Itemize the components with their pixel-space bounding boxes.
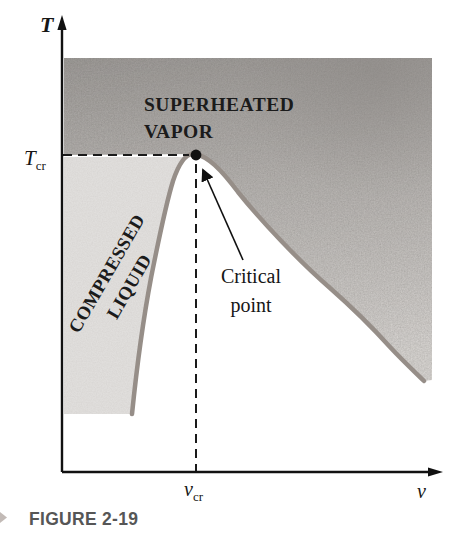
tcr-tick-label: Tcr	[24, 146, 46, 174]
y-axis-arrowhead	[57, 15, 66, 30]
figure-caption: FIGURE 2-19	[29, 509, 138, 530]
x-axis-arrowhead	[428, 467, 443, 476]
critical-point-label: Critical point	[203, 262, 299, 320]
critical-point-dot	[191, 150, 202, 161]
superheated-vapor-label: SUPERHEATED VAPOR	[144, 91, 294, 145]
vcr-tick-base: v	[184, 478, 193, 500]
figure-2-19: T Tcr SUPERHEATED VAPOR COMPRESSED LIQUI…	[0, 0, 450, 535]
vcr-tick-subscript: cr	[193, 489, 203, 504]
tcr-tick-subscript: cr	[36, 158, 46, 173]
superheated-vapor-label-line1: SUPERHEATED	[144, 91, 294, 118]
caption-edge-mark	[0, 512, 7, 523]
critical-point-label-line2: point	[203, 291, 299, 320]
x-axis-label: v	[417, 480, 426, 503]
tcr-tick-base: T	[24, 146, 36, 170]
critical-point-label-line1: Critical	[203, 262, 299, 291]
vcr-tick-label: vcr	[184, 478, 203, 505]
superheated-vapor-label-line2: VAPOR	[144, 118, 294, 145]
y-axis-label: T	[40, 12, 53, 38]
